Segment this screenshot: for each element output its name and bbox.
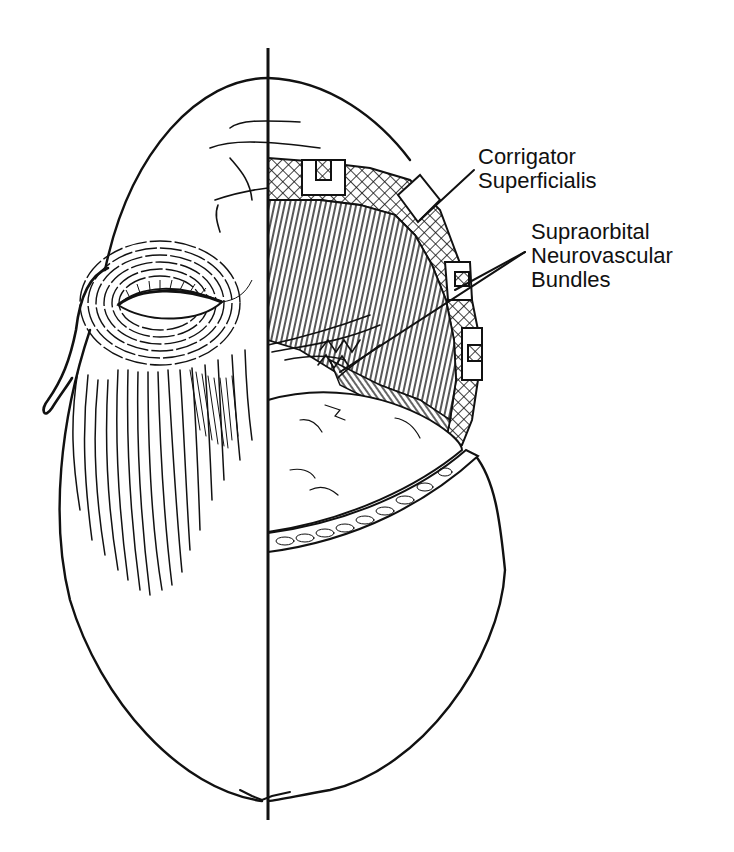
label-supraorbital-line3: Bundles bbox=[531, 268, 673, 292]
label-supraorbital-line1: Supraorbital bbox=[531, 220, 673, 244]
label-corrigator-superficialis: Corrigator Superficialis bbox=[478, 145, 597, 193]
label-corrigator-line1: Corrigator bbox=[478, 145, 597, 169]
facial-muscle-lines bbox=[73, 350, 252, 595]
label-corrigator-line2: Superficialis bbox=[478, 169, 597, 193]
eye bbox=[118, 289, 222, 319]
corrugator-fibers-left bbox=[190, 370, 238, 448]
label-supraorbital-line2: Neurovascular bbox=[531, 244, 673, 268]
label-supraorbital-neurovascular-bundles: Supraorbital Neurovascular Bundles bbox=[531, 220, 673, 292]
anatomical-illustration bbox=[0, 0, 734, 852]
